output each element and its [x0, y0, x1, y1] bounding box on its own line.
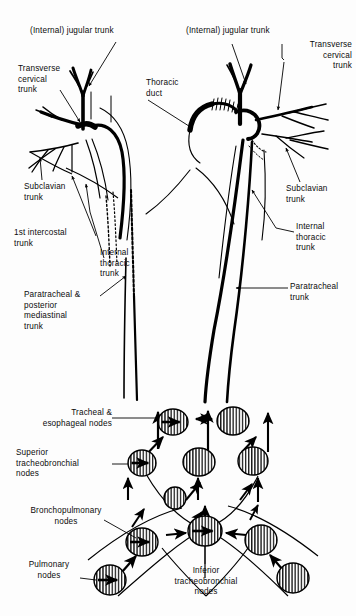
label-paratracheal-trunk: Paratracheal trunk [290, 282, 338, 303]
paratracheal-small-node [164, 487, 186, 509]
pulmonary-node-right [277, 563, 309, 593]
pulmonary-node-left [94, 565, 126, 595]
bronchopulmonary-node-right [245, 525, 277, 555]
label-transverse-cervical-trunk-left: Transverse cervical trunk [18, 64, 60, 96]
label-inferior-tracheobronchial-nodes: Inferior tracheobronchial nodes [148, 566, 264, 598]
superior-tracheobronchial-node-right [238, 447, 268, 475]
superior-tracheobronchial-node-mid [183, 448, 215, 476]
inferior-tracheobronchial-node-mid [188, 516, 222, 546]
label-superior-tracheobronchial-nodes: Superior tracheobronchial nodes [16, 448, 79, 480]
label-jugular-trunk-left: (Internal) jugular trunk [30, 26, 114, 37]
label-internal-thoracic-trunk-left: Internal thoracic trunk [100, 248, 130, 280]
tracheal-esophageal-node-right [217, 407, 249, 435]
label-pulmonary-nodes: Pulmonary nodes [10, 560, 88, 581]
label-first-intercostal-trunk: 1st intercostal trunk [14, 228, 67, 249]
bronchopulmonary-node-left [126, 528, 158, 556]
tracheal-esophageal-node-left [158, 409, 188, 435]
label-thoracic-duct: Thoracic duct [146, 78, 179, 99]
label-internal-thoracic-trunk-right: Internal thoracic trunk [296, 222, 326, 254]
label-transverse-cervical-trunk-right: Transverse cervical trunk [256, 40, 352, 72]
label-paratracheal-posterior-mediastinal: Paratracheal & posterior mediastinal tru… [24, 290, 80, 332]
label-bronchopulmonary-nodes: Bronchopulmonary nodes [14, 506, 118, 527]
label-tracheal-esophageal-nodes: Tracheal & esophageal nodes [14, 408, 112, 429]
label-subclavian-trunk-left: Subclavian trunk [24, 182, 66, 203]
label-subclavian-trunk-right: Subclavian trunk [286, 184, 328, 205]
superior-tracheobronchial-node-left [128, 450, 156, 476]
label-jugular-trunk-right: (Internal) jugular trunk [186, 26, 270, 37]
